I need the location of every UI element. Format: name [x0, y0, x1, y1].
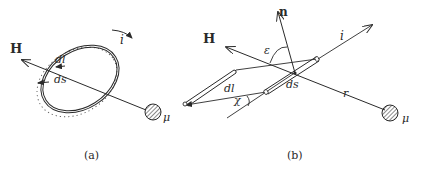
label-ds: ds	[54, 73, 67, 86]
angle-epsilon-arc	[270, 47, 287, 63]
label-r: r	[343, 87, 349, 100]
label-current-i: i	[340, 29, 344, 43]
label-chi: χ	[233, 94, 242, 107]
dl-arrow	[56, 66, 65, 67]
current-vector-i	[318, 25, 372, 59]
label-epsilon: ε	[264, 44, 270, 57]
caption-b: (b)	[287, 149, 303, 162]
label-h: H	[10, 41, 22, 56]
panel-a: H i dl ds μ (a)	[10, 30, 170, 162]
label-n: n	[279, 5, 288, 19]
dipole-sphere	[382, 105, 398, 121]
label-mu: μ	[163, 111, 170, 124]
field-vector-h	[226, 47, 385, 110]
field-vector-h	[22, 60, 146, 110]
diagram-canvas: H i dl ds μ (a)	[0, 0, 423, 171]
panel-b: n H i ε ds r dl χ μ (b)	[183, 5, 409, 162]
caption-a: (a)	[84, 149, 99, 162]
label-current-i: i	[120, 33, 124, 47]
label-mu: μ	[402, 112, 409, 125]
label-h: H	[203, 31, 215, 46]
ds-arrow	[38, 82, 49, 83]
current-loop-inner	[31, 34, 129, 124]
left-vertex	[183, 102, 187, 106]
ds-point	[293, 71, 296, 74]
label-ds: ds	[286, 78, 299, 91]
current-loop-outer	[28, 31, 131, 126]
dipole-sphere	[145, 104, 161, 120]
label-dl: dl	[55, 53, 66, 66]
